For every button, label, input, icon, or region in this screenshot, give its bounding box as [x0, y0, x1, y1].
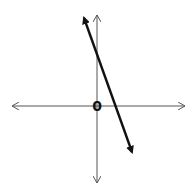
origin-label: 0: [92, 98, 102, 114]
graphed-line: [84, 18, 132, 152]
coordinate-plane: 0: [0, 0, 195, 192]
